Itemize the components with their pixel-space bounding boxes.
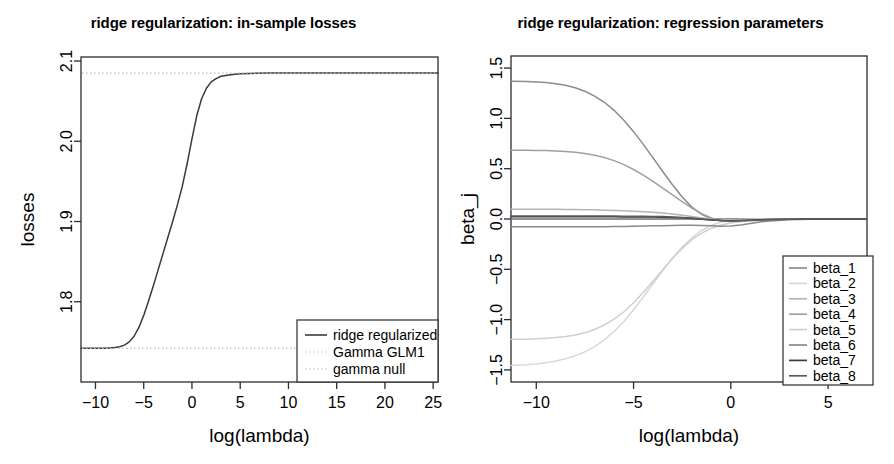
series-line-beta_4 <box>511 150 867 221</box>
data-layer <box>81 73 438 348</box>
x-tick-label: −5 <box>135 394 153 411</box>
x-tick-label: −10 <box>523 394 550 411</box>
x-tick-label: 0 <box>726 394 735 411</box>
y-tick-label: 1.8 <box>58 291 75 313</box>
y-tick-label: −1.5 <box>488 354 505 386</box>
legend-label-beta_3: beta_3 <box>813 291 856 307</box>
legend-label-beta_5: beta_5 <box>813 322 856 338</box>
y-tick-label: 0.5 <box>488 157 505 179</box>
x-axis: −10−505 <box>523 382 833 411</box>
x-tick-label: 0 <box>188 394 197 411</box>
x-tick-label: 5 <box>824 394 833 411</box>
left-legend[interactable]: ridge regularizedGamma GLM1gamma null <box>297 320 438 382</box>
x-tick-label: −5 <box>624 394 642 411</box>
legend-label-1: ridge regularized <box>333 327 437 343</box>
y-tick-label: 1.5 <box>488 57 505 79</box>
y-tick-label: −1.0 <box>488 304 505 336</box>
legend-label-beta_1: beta_1 <box>813 260 856 276</box>
legend-label-beta_2: beta_2 <box>813 275 856 291</box>
x-tick-label: 25 <box>424 394 442 411</box>
y-tick-label: −0.5 <box>488 253 505 285</box>
x-tick-label: 20 <box>376 394 394 411</box>
y-tick-label: 2.1 <box>58 50 75 72</box>
x-tick-label: 10 <box>280 394 298 411</box>
y-axis: 1.81.92.02.1 <box>58 50 81 313</box>
x-axis: −10−50510152025 <box>82 382 442 411</box>
right-plot-area: −10−505−1.5−1.0−0.50.00.51.01.5log(lambd… <box>447 0 894 464</box>
x-tick-label: 5 <box>236 394 245 411</box>
x-tick-label: −10 <box>82 394 109 411</box>
x-axis-label: log(lambda) <box>639 425 739 446</box>
legend-label-beta_4: beta_4 <box>813 306 856 322</box>
legend-label-2: Gamma GLM1 <box>333 344 425 360</box>
series-line-ridge-regularized <box>81 73 438 348</box>
y-axis-label: losses <box>17 193 38 247</box>
x-axis-label: log(lambda) <box>209 425 309 446</box>
y-axis-label: beta_j <box>457 193 479 245</box>
x-tick-label: 15 <box>328 394 346 411</box>
panel-regression-parameters: ridge regularization: regression paramet… <box>447 0 894 464</box>
y-tick-label: 2.0 <box>58 130 75 152</box>
right-legend[interactable]: beta_1beta_2beta_3beta_4beta_5beta_6beta… <box>783 256 873 385</box>
y-axis: −1.5−1.0−0.50.00.51.01.5 <box>488 57 511 386</box>
legend-label-beta_8: beta_8 <box>813 368 856 384</box>
y-tick-label: 1.9 <box>58 210 75 232</box>
left-plot-area: −10−505101520251.81.92.02.1log(lambda)lo… <box>0 0 447 464</box>
panel-in-sample-losses: ridge regularization: in-sample losses −… <box>0 0 447 464</box>
figure-canvas: ridge regularization: in-sample losses −… <box>0 0 894 464</box>
legend-label-beta_7: beta_7 <box>813 352 856 368</box>
y-tick-label: 1.0 <box>488 107 505 129</box>
series-line-beta_6 <box>511 219 867 227</box>
y-tick-label: 0.0 <box>488 208 505 230</box>
legend-label-3: gamma null <box>333 361 405 377</box>
legend-label-beta_6: beta_6 <box>813 337 856 353</box>
